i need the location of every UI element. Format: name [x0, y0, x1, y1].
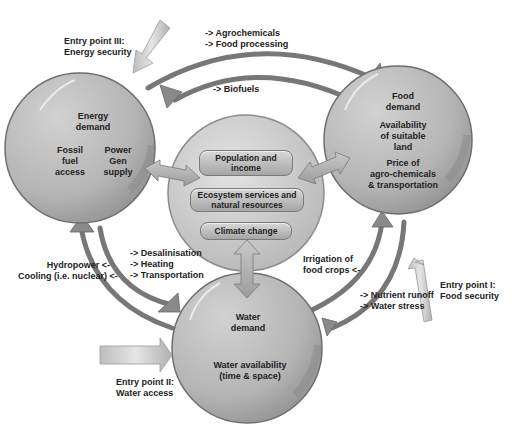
- water-demand-title: Water demand: [218, 312, 278, 334]
- fossil-fuel-access-label: Fossil fuel access: [52, 145, 88, 178]
- price-agrochemicals-label: Price of agro-chemicals & transportation: [350, 158, 456, 191]
- flow-food-to-energy-label: -> Biofuels: [213, 84, 259, 95]
- nexus-diagram: Entry point III: Energy security Entry p…: [0, 0, 515, 430]
- power-gen-supply-label: Power Gen supply: [98, 145, 138, 178]
- population-income-box: Population and income: [199, 150, 293, 176]
- energy-demand-title: Energy demand: [68, 111, 118, 133]
- arc-food-to-energy: [175, 78, 352, 101]
- flow-energy-to-food-label: -> Agrochemicals -> Food processing: [205, 28, 288, 50]
- entry-point-water-label: Entry point II: Water access: [116, 377, 174, 399]
- climate-change-box: Climate change: [200, 222, 292, 240]
- ecosystem-services-box: Ecosystem services and natural resources: [190, 188, 304, 212]
- entry-arrow-water: [100, 338, 172, 372]
- flow-food-to-water-label: -> Nutrient runoff -> Water stress: [360, 290, 434, 312]
- flow-energy-to-water-label: -> Desalinisation -> Heating -> Transpor…: [130, 248, 204, 281]
- entry-point-food-label: Entry point I: Food security: [440, 280, 499, 302]
- availability-suitable-land-label: Availability of suitable land: [360, 120, 446, 153]
- water-availability-label: Water availability (time & space): [200, 360, 300, 382]
- flow-water-to-energy-label: Hydropower <- Cooling (i.e. nuclear) <-: [18, 260, 110, 282]
- entry-point-energy-label: Entry point III: Energy security: [64, 36, 132, 58]
- entry-arrow-energy: [133, 20, 170, 73]
- arc-energy-to-food: [148, 54, 372, 88]
- flow-water-to-food-label: Irrigation of food crops <-: [303, 254, 360, 276]
- food-demand-title: Food demand: [368, 91, 438, 113]
